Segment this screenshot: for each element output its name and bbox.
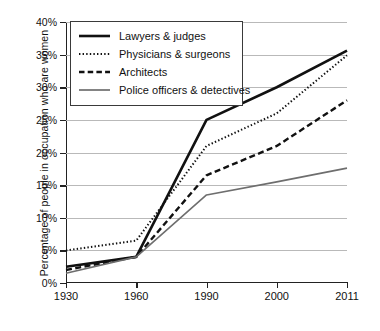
x-tick [347, 282, 348, 288]
x-tick-label: 1990 [194, 290, 218, 302]
y-tick-label: 20% [36, 147, 57, 159]
legend-item: Architects [78, 63, 235, 81]
y-tick-label: 10% [36, 212, 57, 224]
x-tick-label: 2011 [335, 290, 359, 302]
y-tick-label: 25% [36, 114, 57, 126]
chart-legend: Lawyers & judges Physicians & surgeons A… [70, 21, 243, 106]
x-tick-label: 1960 [124, 290, 148, 302]
y-tick-label: 0% [42, 277, 57, 289]
legend-item: Physicians & surgeons [78, 45, 235, 63]
legend-label-lawyers-judges: Lawyers & judges [119, 30, 206, 42]
legend-label-police-officers-detectives: Police officers & detectives [119, 84, 250, 96]
chart-container: Percentage of people in occupation who a… [0, 0, 380, 331]
x-tick-label: 2000 [265, 290, 289, 302]
y-tick-label: 5% [42, 244, 57, 256]
legend-swatch-police-officers-detectives [78, 84, 111, 96]
legend-label-physicians-surgeons: Physicians & surgeons [119, 48, 230, 60]
y-tick-label: 15% [36, 179, 57, 191]
legend-swatch-architects [78, 66, 111, 78]
legend-item: Police officers & detectives [78, 81, 235, 99]
y-tick-label: 30% [36, 81, 57, 93]
x-tick-label: 1930 [54, 290, 78, 302]
series-line-architects [66, 100, 347, 270]
legend-swatch-lawyers-judges [78, 30, 111, 42]
legend-label-architects: Architects [119, 66, 167, 78]
y-tick-label: 40% [36, 16, 57, 28]
legend-swatch-physicians-surgeons [78, 48, 111, 60]
series-line-police-officers-detectives [66, 168, 347, 273]
legend-item: Lawyers & judges [78, 27, 235, 45]
y-tick-label: 35% [36, 49, 57, 61]
